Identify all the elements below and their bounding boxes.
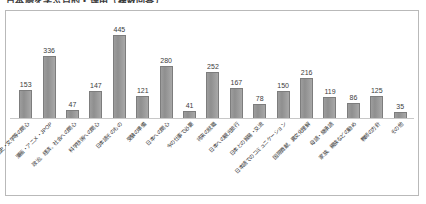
bar [370,96,383,120]
bar [300,78,313,119]
bar [89,91,102,119]
bar-slot: 216 [295,11,318,119]
bar-value-label: 119 [324,88,335,96]
bar-chart-frame: 1533364714744512128041252167781502161198… [5,10,419,196]
bar-slot: 47 [61,11,84,119]
bar-value-label: 153 [20,81,32,89]
category-label-slot: 教師の方針 [365,119,388,195]
bar-slot: 147 [84,11,107,119]
bar [43,56,56,119]
bar-value-label: 336 [43,47,55,55]
category-label: その他 [390,121,405,136]
bar-slot: 150 [271,11,294,119]
bar [323,97,336,119]
bar-series: 1533364714744512128041252167781502161198… [14,11,412,119]
bar [19,90,32,119]
plot-area: 1533364714744512128041252167781502161198… [6,11,418,119]
bar-value-label: 252 [207,63,219,71]
bar [160,66,173,119]
bar-slot: 125 [365,11,388,119]
chart-page: 日本語を学ぶ目的・理由（複数回答） 1533364714744512128041… [0,0,426,204]
bar [136,96,149,119]
bar [347,103,360,119]
bar-slot: 167 [225,11,248,119]
page-title: 日本語を学ぶ目的・理由（複数回答） [6,0,164,3]
bar-slot: 86 [342,11,365,119]
category-label-slot: 日本語そのもの [108,119,131,195]
bar-value-label: 147 [90,82,102,90]
category-label-slot: 日本への観光旅行 [225,119,248,195]
bar-value-label: 47 [69,101,77,109]
bar [230,88,243,119]
bar-value-label: 121 [137,87,149,95]
bar-value-label: 125 [371,87,383,95]
bar [206,72,219,119]
bar-value-label: 167 [231,79,243,87]
category-label-slot: 日本への関心 [154,119,177,195]
category-label-slot: 国際貢献、異文化理解 [295,119,318,195]
bar [253,104,266,119]
category-label-slot: 今の仕事で必要 [178,119,201,195]
bar-value-label: 35 [396,103,404,111]
bar-slot: 445 [108,11,131,119]
bar-slot: 336 [37,11,60,119]
category-label-slot: 将来の就職 [201,119,224,195]
bar-slot: 35 [389,11,412,119]
bar-value-label: 86 [349,94,357,102]
category-label-slot: その他 [389,119,412,195]
bar-slot: 280 [154,11,177,119]
category-label-slot: 政治、経済、社会への関心 [61,119,84,195]
bar-value-label: 78 [256,95,264,103]
bar-value-label: 280 [160,57,172,65]
bar-slot: 153 [14,11,37,119]
bar-slot: 119 [318,11,341,119]
bar-slot: 78 [248,11,271,119]
category-label-slot: 科学技術への関心 [84,119,107,195]
bar [277,91,290,119]
category-label-slot: 受験の準備 [131,119,154,195]
bar-slot: 121 [131,11,154,119]
bar-slot: 41 [178,11,201,119]
bar [113,35,126,119]
bar-value-label: 445 [113,26,125,34]
category-label-slot: 家族、親族などの勧め [342,119,365,195]
bar-value-label: 41 [186,102,194,110]
category-axis-labels: 歴史・文学等の関心漫画・アニメ・JPOP政治、経済、社会への関心科学技術への関心… [14,119,412,195]
bar-value-label: 150 [277,82,289,90]
bar-slot: 252 [201,11,224,119]
bar-value-label: 216 [301,69,313,77]
